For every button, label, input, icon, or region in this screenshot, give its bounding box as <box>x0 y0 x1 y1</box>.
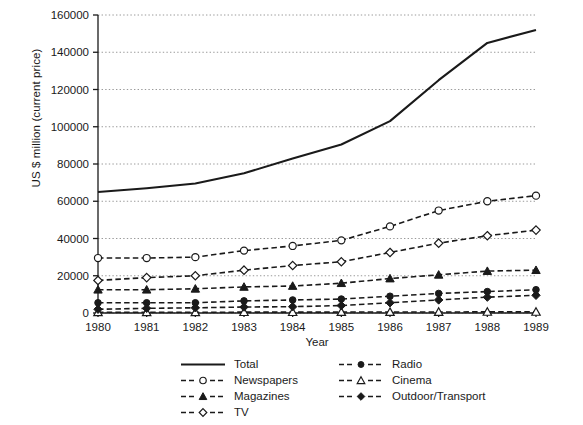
legend-marker-open-diamond-icon <box>178 405 228 420</box>
svg-text:1980: 1980 <box>85 321 111 333</box>
svg-text:1987: 1987 <box>426 321 452 333</box>
legend-marker-filled-triangle-icon <box>178 389 228 404</box>
svg-text:1985: 1985 <box>329 321 355 333</box>
svg-text:1983: 1983 <box>231 321 257 333</box>
chart-figure: US $ million (current price) Year 020000… <box>0 0 583 425</box>
legend-item[interactable]: Magazines <box>178 389 328 406</box>
svg-text:20000: 20000 <box>57 270 89 282</box>
legend-item-label: Magazines <box>234 389 290 404</box>
legend-marker-filled-diamond-icon <box>336 389 386 404</box>
svg-text:40000: 40000 <box>57 233 89 245</box>
svg-text:1988: 1988 <box>475 321 501 333</box>
legend-item-label: Outdoor/Transport <box>392 389 486 404</box>
line-chart-canvas: 0200004000060000800001000001200001400001… <box>0 0 583 345</box>
legend-marker-open-circle-icon <box>178 373 228 388</box>
svg-text:140000: 140000 <box>51 46 89 58</box>
legend-item-label: TV <box>234 405 249 420</box>
legend-item-label: Cinema <box>392 373 432 388</box>
svg-text:1989: 1989 <box>523 321 549 333</box>
series-magazines <box>94 266 540 293</box>
chart-legend: TotalRadioNewspapersCinemaMagazinesOutdo… <box>178 357 508 419</box>
legend-item[interactable]: Cinema <box>336 373 511 390</box>
legend-item[interactable]: Total <box>178 357 328 374</box>
svg-text:1981: 1981 <box>134 321 160 333</box>
legend-item[interactable]: Newspapers <box>178 373 328 390</box>
data-series-layer <box>94 30 540 316</box>
legend-item[interactable]: Radio <box>336 357 511 374</box>
legend-item[interactable]: TV <box>178 405 328 422</box>
y-axis-ticks <box>93 15 98 313</box>
svg-text:100000: 100000 <box>51 121 89 133</box>
svg-text:160000: 160000 <box>51 9 89 21</box>
legend-item-label: Total <box>234 357 258 372</box>
legend-marker-line-icon <box>178 357 228 372</box>
svg-text:60000: 60000 <box>57 195 89 207</box>
series-total <box>98 30 536 192</box>
legend-item-label: Radio <box>392 357 422 372</box>
svg-text:80000: 80000 <box>57 158 89 170</box>
svg-text:0: 0 <box>83 307 89 319</box>
legend-marker-filled-circle-icon <box>336 357 386 372</box>
plot-area: 0200004000060000800001000001200001400001… <box>0 0 583 345</box>
svg-text:1984: 1984 <box>280 321 306 333</box>
legend-item-label: Newspapers <box>234 373 298 388</box>
svg-text:1982: 1982 <box>183 321 209 333</box>
svg-text:120000: 120000 <box>51 84 89 96</box>
svg-text:1986: 1986 <box>377 321 403 333</box>
gridlines <box>98 15 536 313</box>
legend-item[interactable]: Outdoor/Transport <box>336 389 511 406</box>
x-tick-labels: 1980198119821983198419851986198719881989 <box>85 321 549 333</box>
y-tick-labels: 0200004000060000800001000001200001400001… <box>51 9 89 319</box>
series-newspapers <box>94 192 539 262</box>
legend-marker-open-triangle-icon <box>336 373 386 388</box>
